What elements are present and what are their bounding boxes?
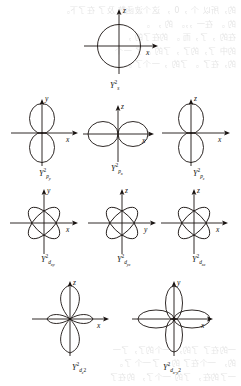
axis-label-x: x bbox=[66, 135, 69, 144]
axis-label-z: z bbox=[73, 278, 76, 287]
orbital-label-px: Y2px bbox=[111, 162, 123, 176]
orbital-label-dyz: Y2dyz bbox=[117, 253, 131, 267]
orbital-label-py: Y2py bbox=[39, 167, 51, 181]
axis-label-y: y bbox=[144, 225, 147, 234]
plot-pz-svg bbox=[162, 96, 238, 168]
axis-label-z: z bbox=[123, 6, 126, 15]
orbital-label-pz: Y2pz bbox=[193, 167, 205, 181]
axis-label-z: z bbox=[125, 186, 128, 195]
axis-label-x: x bbox=[201, 321, 204, 330]
orbital-label-dxz: Y2dxz bbox=[192, 253, 206, 267]
orbital-label-dxy: Y2dxy bbox=[41, 253, 55, 267]
axis-label-x: x bbox=[218, 135, 221, 144]
plot-py-orbital: y x bbox=[8, 96, 84, 168]
axis-label-y: y bbox=[177, 278, 180, 287]
plot-pz-orbital: z x bbox=[162, 96, 238, 168]
plot-dyz-svg bbox=[86, 186, 164, 256]
axis-label-x: x bbox=[97, 321, 100, 330]
plot-s-orbital: z x bbox=[78, 6, 164, 78]
axis-label-z: z bbox=[197, 186, 200, 195]
orbital-label-s: Y2s bbox=[110, 79, 119, 91]
plot-dz2-orbital: z x bbox=[30, 280, 118, 358]
axis-label-y: y bbox=[45, 94, 48, 103]
axis-label-y: y bbox=[47, 186, 50, 195]
plot-px-svg bbox=[82, 104, 160, 166]
orbital-figure: z x Y2s y x Y2py bbox=[0, 0, 241, 386]
plot-dxy-svg bbox=[8, 186, 86, 256]
plot-dx2y2-orbital: y x bbox=[130, 280, 222, 358]
plot-s-svg bbox=[78, 6, 164, 78]
axis-label-z: z bbox=[194, 94, 197, 103]
plot-dxy-orbital: y x bbox=[8, 186, 86, 256]
plot-dz2-svg bbox=[30, 280, 118, 358]
axis-label-x: x bbox=[142, 136, 145, 145]
orbital-label-dz2: Y2dz2 bbox=[72, 361, 86, 375]
axis-label-z: z bbox=[121, 102, 124, 111]
plot-dyz-orbital: z y bbox=[86, 186, 164, 256]
plot-dxz-orbital: z x bbox=[161, 186, 239, 256]
plot-py-svg bbox=[8, 96, 84, 168]
plot-px-orbital: z x bbox=[82, 104, 160, 166]
axis-label-x: x bbox=[216, 225, 219, 234]
plot-dxz-svg bbox=[161, 186, 239, 256]
plot-dx2y2-svg bbox=[130, 280, 222, 358]
axis-label-x: x bbox=[146, 48, 149, 57]
orbital-label-dx2y2: Y2dx-y2 bbox=[163, 361, 181, 375]
axis-label-x: x bbox=[66, 225, 69, 234]
